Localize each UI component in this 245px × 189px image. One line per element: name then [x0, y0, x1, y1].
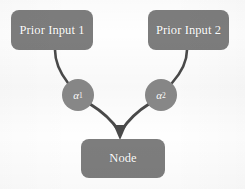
- edge-input2-alpha2: [172, 50, 187, 83]
- prior-input-2-box[interactable]: [148, 10, 229, 50]
- edge-input1-alpha1: [55, 50, 68, 83]
- alpha-2-circle[interactable]: [145, 79, 177, 111]
- diagram-canvas: Prior Input 1 Prior Input 2 Node α1 α2: [0, 0, 245, 189]
- node-box[interactable]: [81, 139, 165, 178]
- prior-input-1-box[interactable]: [11, 10, 93, 50]
- alpha-1-circle[interactable]: [62, 79, 94, 111]
- diagram-graphics: [0, 0, 245, 189]
- arrowhead-icon: [114, 125, 127, 140]
